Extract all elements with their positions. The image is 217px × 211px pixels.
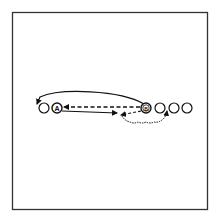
player-a: A bbox=[52, 103, 62, 113]
player-open-2 bbox=[155, 103, 165, 113]
player-b-label: B bbox=[144, 106, 148, 112]
player-a-label: A bbox=[54, 105, 59, 112]
player-open-3 bbox=[169, 103, 179, 113]
player-open-1 bbox=[39, 103, 49, 113]
player-b: B bbox=[141, 103, 151, 113]
drill-diagram: A B bbox=[0, 0, 217, 211]
player-open-4 bbox=[182, 103, 192, 113]
